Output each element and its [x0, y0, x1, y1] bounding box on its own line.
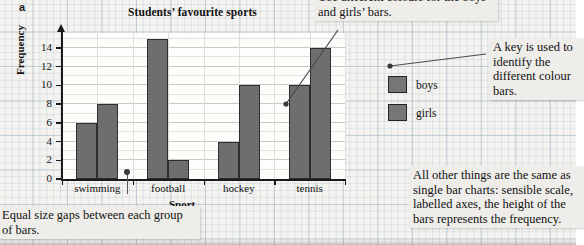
y-axis-tick-label: 4	[30, 135, 52, 147]
y-axis-tick	[56, 103, 62, 104]
chart-title: Students’ favourite sports	[128, 6, 257, 18]
y-axis-ticks: 02468101214	[0, 0, 62, 210]
bar-hockey-boys	[218, 142, 239, 179]
x-axis-category-hockey: hockey	[204, 182, 275, 194]
callout-other-things: All other things are the same as single …	[409, 166, 584, 228]
x-axis-category-football: football	[133, 182, 204, 194]
y-axis-tick-label: 14	[30, 41, 52, 53]
bar-tennis-boys	[289, 85, 310, 179]
callout-equal-gaps: Equal size gaps between each group of ba…	[0, 206, 200, 239]
y-axis-tick-label: 12	[30, 60, 52, 72]
gridline-vertical	[168, 33, 169, 179]
x-axis-category-tennis: tennis	[274, 182, 345, 194]
legend-swatch-girls	[388, 104, 407, 121]
gridline-vertical	[204, 33, 205, 179]
legend-item-boys: boys	[388, 76, 438, 93]
legend-swatch-boys	[388, 76, 407, 93]
bar-tennis-girls	[310, 48, 331, 179]
page-bottom-edge	[0, 239, 576, 245]
gridline-vertical	[345, 33, 346, 179]
legend-label-boys: boys	[416, 79, 438, 91]
bar-chart: Students’ favourite sports Frequency Spo…	[0, 0, 360, 210]
y-axis-tick	[56, 160, 62, 161]
bar-hockey-girls	[239, 85, 260, 179]
y-axis-tick	[56, 66, 62, 67]
y-axis-tick-label: 6	[30, 116, 52, 128]
callout-use-different-colours: Use different colours for the boys’ and …	[314, 0, 498, 21]
bar-swimming-boys	[76, 123, 97, 179]
y-axis-tick-label: 0	[30, 172, 52, 184]
gridline-vertical	[133, 33, 134, 179]
legend-label-girls: girls	[416, 107, 436, 119]
gridline-vertical	[274, 33, 275, 179]
y-axis-tick-label: 8	[30, 97, 52, 109]
plot-area	[62, 33, 345, 179]
y-axis-tick	[56, 122, 62, 123]
y-axis-tick	[56, 47, 62, 48]
gap-pointer-dot-icon	[124, 169, 130, 175]
y-axis-tick	[56, 141, 62, 142]
chart-legend: boys girls	[388, 76, 438, 132]
y-axis-tick-label: 2	[30, 153, 52, 165]
bar-football-girls	[168, 160, 189, 179]
bar-football-boys	[147, 39, 168, 179]
legend-item-girls: girls	[388, 104, 438, 121]
x-axis-tick	[345, 179, 346, 185]
y-axis-tick-label: 10	[30, 78, 52, 90]
y-axis-tick	[56, 85, 62, 86]
callout-key-explanation: A key is used to identify the different …	[489, 38, 584, 100]
bar-swimming-girls	[97, 104, 118, 179]
x-axis-category-swimming: swimming	[62, 182, 133, 194]
